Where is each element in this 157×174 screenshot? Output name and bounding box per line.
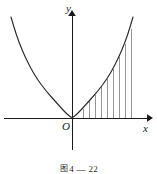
caption-marker: 图 xyxy=(59,163,69,174)
figure-container: y x O 图4 — 22 xyxy=(0,0,157,174)
x-axis-label: x xyxy=(142,122,148,134)
figure-caption: 图4 — 22 xyxy=(0,163,157,174)
y-axis-label: y xyxy=(65,2,71,14)
ordinate-group xyxy=(83,29,131,118)
origin-label: O xyxy=(62,120,70,132)
parabola-plot: y x O xyxy=(0,0,157,174)
x-axis-arrow-icon xyxy=(147,114,153,122)
caption-text: 4 — 22 xyxy=(69,164,98,174)
